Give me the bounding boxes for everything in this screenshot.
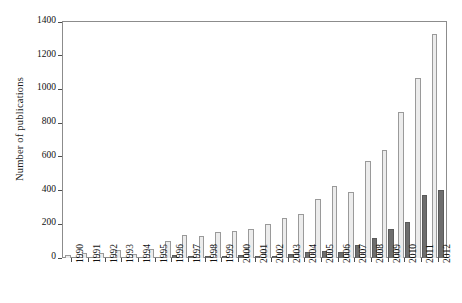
x-axis-tick-label: 1993 (125, 244, 135, 263)
y-axis-tick-mark (58, 190, 62, 191)
x-axis-tick-mark (354, 258, 355, 262)
bar-light (382, 150, 388, 258)
bar-light (415, 78, 421, 258)
bar-group (113, 22, 130, 258)
y-axis-tick-mark (58, 258, 62, 259)
x-axis-tick-label: 1991 (92, 244, 102, 263)
x-axis-tick-label: 2007 (358, 244, 368, 263)
bar-group (96, 22, 113, 258)
bar-light (432, 34, 438, 258)
x-axis-tick-mark (188, 258, 189, 262)
x-axis-tick-label: 1992 (109, 244, 119, 263)
bar-group (429, 22, 446, 258)
x-axis-tick-label: 2003 (292, 244, 302, 263)
x-axis-tick-label: 2004 (308, 244, 318, 263)
y-axis-tick-mark (58, 89, 62, 90)
x-axis-tick-mark (271, 258, 272, 262)
bar-group (213, 22, 230, 258)
x-axis-tick-label: 2000 (242, 244, 252, 263)
x-axis-tick-mark (388, 258, 389, 262)
x-axis-tick-label: 2010 (408, 244, 418, 263)
bar-group (180, 22, 197, 258)
x-axis-tick-mark (404, 258, 405, 262)
bar-group (80, 22, 97, 258)
x-axis-tick-label: 1997 (192, 244, 202, 263)
bar-group (163, 22, 180, 258)
x-axis-tick-label: 2008 (375, 244, 385, 263)
y-axis-tick-label: 200 (42, 217, 56, 227)
y-axis-tick-mark (58, 224, 62, 225)
publications-bar-chart: Number of publications 02004006008001000… (0, 0, 462, 303)
x-axis-tick-mark (321, 258, 322, 262)
x-axis-tick-mark (421, 258, 422, 262)
bar-group (413, 22, 430, 258)
x-axis-tick-mark (438, 258, 439, 262)
bar-light (398, 112, 404, 258)
x-axis-tick-label: 1994 (142, 244, 152, 263)
x-axis-tick-mark (288, 258, 289, 262)
y-axis-tick-label: 1200 (37, 49, 56, 59)
x-axis-tick-label: 1995 (159, 244, 169, 263)
x-axis-tick-label: 2006 (342, 244, 352, 263)
bar-group (313, 22, 330, 258)
bar-group (279, 22, 296, 258)
bar-group (230, 22, 247, 258)
x-axis-tick-label: 1990 (75, 244, 85, 263)
y-axis-tick-label: 600 (42, 150, 56, 160)
y-axis-tick-mark (58, 22, 62, 23)
x-axis-tick-mark (105, 258, 106, 262)
y-axis-title: Number of publications (10, 0, 28, 258)
bar-group (396, 22, 413, 258)
bar-group (63, 22, 80, 258)
x-axis-tick-label: 1996 (175, 244, 185, 263)
bar-group (263, 22, 280, 258)
x-axis-tick-mark (138, 258, 139, 262)
y-axis-tick-mark (58, 55, 62, 56)
bar-group (146, 22, 163, 258)
x-axis-ticks-and-labels: 1990199119921993199419951996199719981999… (63, 258, 446, 303)
x-axis-tick-mark (371, 258, 372, 262)
bar-group (363, 22, 380, 258)
x-axis-tick-label: 2002 (275, 244, 285, 263)
x-axis-tick-mark (121, 258, 122, 262)
y-axis-tick-mark (58, 156, 62, 157)
x-axis-tick-mark (71, 258, 72, 262)
x-axis-tick-mark (221, 258, 222, 262)
x-axis-tick-mark (171, 258, 172, 262)
y-axis-tick-label: 400 (42, 184, 56, 194)
x-axis-tick-mark (88, 258, 89, 262)
bar-group (196, 22, 213, 258)
y-axis-tick-label: 800 (42, 116, 56, 126)
x-axis-tick-mark (338, 258, 339, 262)
y-axis-tick-label: 1000 (37, 82, 56, 92)
y-axis-tick-label: 0 (51, 251, 56, 261)
x-axis-tick-mark (304, 258, 305, 262)
y-axis-tick-label: 1400 (37, 15, 56, 25)
x-axis-tick-mark (205, 258, 206, 262)
bar-group (379, 22, 396, 258)
x-axis-tick-label: 2001 (259, 244, 269, 263)
x-axis-tick-label: 2005 (325, 244, 335, 263)
x-axis-tick-label: 1998 (209, 244, 219, 263)
x-axis-tick-label: 2009 (392, 244, 402, 263)
bars-layer (63, 22, 446, 258)
x-axis-tick-mark (238, 258, 239, 262)
bar-group (130, 22, 147, 258)
x-axis-tick-mark (255, 258, 256, 262)
x-axis-tick-mark (155, 258, 156, 262)
x-axis-tick-label: 1999 (225, 244, 235, 263)
bar-group (329, 22, 346, 258)
bar-group (246, 22, 263, 258)
bar-group (296, 22, 313, 258)
bar-group (346, 22, 363, 258)
x-axis-tick-label: 2011 (425, 244, 435, 263)
x-axis-tick-label: 2012 (442, 244, 452, 263)
y-axis-tick-mark (58, 123, 62, 124)
